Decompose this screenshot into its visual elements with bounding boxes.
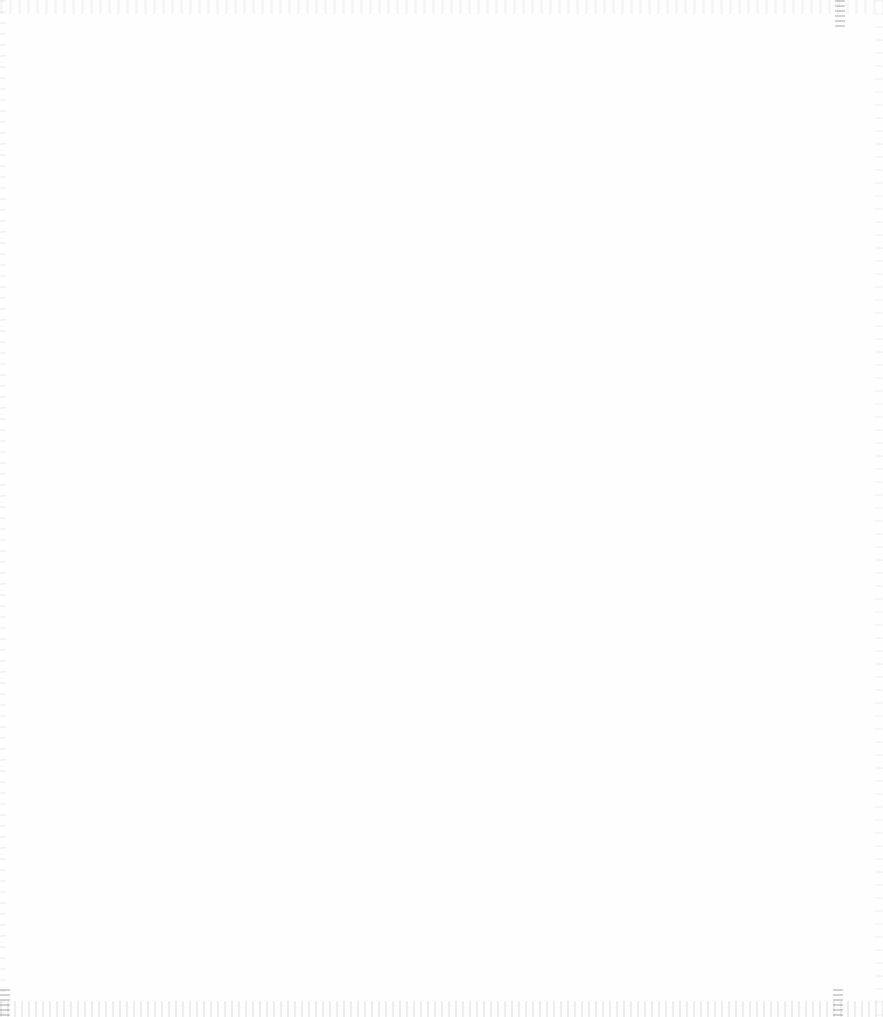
scan-noise-top <box>0 0 883 14</box>
scan-noise-left <box>0 0 6 1017</box>
blank-page <box>0 0 883 1017</box>
scan-noise-right <box>875 0 883 1017</box>
scan-noise-bottom <box>0 1001 883 1017</box>
scan-mark-bottom-left <box>0 989 10 1017</box>
page-content <box>40 40 843 977</box>
scan-mark-top-right <box>835 0 845 28</box>
scan-mark-bottom-right <box>833 989 843 1017</box>
